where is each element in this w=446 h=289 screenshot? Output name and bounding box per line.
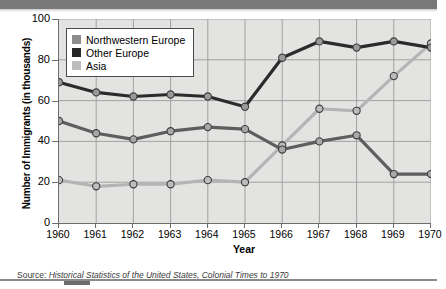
data-point-marker (93, 89, 100, 96)
y-tick-label: 20 (24, 175, 50, 187)
legend-swatch-icon (72, 48, 81, 57)
data-point-marker (353, 132, 360, 139)
legend-label: Asia (86, 60, 106, 72)
data-point-marker (279, 146, 286, 153)
x-tick-label: 1965 (224, 228, 264, 240)
data-point-marker (316, 105, 323, 112)
data-point-marker (353, 44, 360, 51)
legend-label: Northwestern Europe (86, 34, 185, 46)
data-point-marker (353, 107, 360, 114)
data-point-marker (167, 181, 174, 188)
y-tick-label: 100 (24, 12, 50, 24)
x-tick-label: 1963 (150, 228, 190, 240)
data-point-marker (279, 54, 286, 61)
data-point-marker (59, 177, 63, 184)
data-point-marker (241, 126, 248, 133)
x-tick-label: 1970 (410, 228, 446, 240)
data-point-marker (93, 183, 100, 190)
data-point-marker (241, 179, 248, 186)
data-point-marker (427, 170, 431, 177)
data-point-marker (427, 44, 431, 51)
data-point-marker (204, 124, 211, 131)
data-point-marker (390, 73, 397, 80)
y-tick-label: 0 (24, 216, 50, 228)
immigration-line-chart-figure: Number of Immigrants (in thousands) Year… (0, 12, 437, 277)
legend-item: Northwestern Europe (72, 33, 185, 46)
data-point-marker (130, 136, 137, 143)
data-point-marker (130, 181, 137, 188)
x-tick-label: 1969 (373, 228, 413, 240)
data-point-marker (167, 91, 174, 98)
data-point-marker (59, 79, 63, 86)
legend-swatch-icon (72, 35, 81, 44)
y-tick-label: 40 (24, 134, 50, 146)
x-tick-label: 1964 (187, 228, 227, 240)
top-banner (0, 0, 437, 9)
data-point-marker (93, 130, 100, 137)
x-tick-label: 1966 (261, 228, 301, 240)
data-point-marker (316, 38, 323, 45)
data-point-marker (390, 170, 397, 177)
chart-legend: Northwestern EuropeOther EuropeAsia (66, 28, 194, 77)
legend-label: Other Europe (86, 47, 149, 59)
y-tick-label: 60 (24, 94, 50, 106)
data-point-marker (204, 177, 211, 184)
data-point-marker (204, 93, 211, 100)
x-tick-label: 1960 (38, 228, 78, 240)
x-axis-title: Year (58, 243, 430, 255)
x-tick-label: 1967 (298, 228, 338, 240)
legend-item: Asia (72, 59, 185, 72)
data-point-marker (167, 128, 174, 135)
data-point-marker (390, 38, 397, 45)
y-tick-label: 80 (24, 53, 50, 65)
data-point-marker (316, 138, 323, 145)
x-tick-label: 1962 (112, 228, 152, 240)
x-tick-label: 1961 (75, 228, 115, 240)
x-tick-label: 1968 (336, 228, 376, 240)
bottom-tab-mark (64, 281, 90, 285)
data-point-marker (130, 93, 137, 100)
legend-item: Other Europe (72, 46, 185, 59)
data-point-marker (241, 103, 248, 110)
data-point-marker (59, 117, 63, 124)
legend-swatch-icon (72, 61, 81, 70)
